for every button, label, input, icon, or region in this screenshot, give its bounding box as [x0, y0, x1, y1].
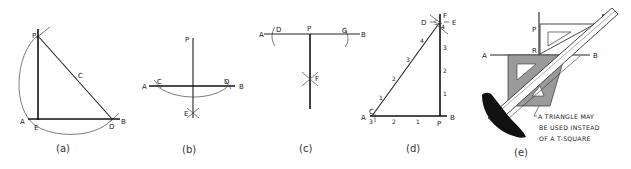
- caption-b: (b): [182, 144, 196, 155]
- base-tick-2: 2: [392, 118, 396, 125]
- label-d: D: [421, 19, 426, 27]
- label-a: A: [482, 52, 487, 60]
- figure-a: P C A E D B (a): [0, 0, 130, 169]
- label-a: A: [142, 83, 147, 91]
- label-f: F: [315, 75, 319, 83]
- caption-a: (a): [56, 143, 70, 154]
- hyp-tick-4: 4: [420, 37, 424, 44]
- note-line-1: A TRIANGLE MAY: [538, 113, 594, 120]
- vertical-tick-2: 2: [443, 67, 447, 74]
- figure-c: A D P G B F (c): [240, 0, 370, 169]
- hyp-tick-2: 2: [392, 75, 396, 82]
- label-e: E: [184, 110, 188, 118]
- label-c: C: [369, 108, 374, 116]
- label-f: F: [443, 12, 447, 20]
- label-b: B: [450, 114, 455, 122]
- caption-c: (c): [299, 143, 312, 154]
- label-a: A: [20, 118, 25, 126]
- hyp-tick-1: 1: [379, 94, 383, 101]
- label-e: E: [34, 124, 38, 132]
- note-line-2: BE USED INSTEAD: [539, 124, 600, 131]
- hypotenuse-line: [372, 22, 440, 116]
- label-b: B: [593, 52, 598, 60]
- label-p: P: [185, 36, 189, 44]
- base-tick-3: 3: [369, 118, 373, 125]
- figure-b: P A C D B E (b): [125, 0, 255, 169]
- label-p: P: [532, 26, 536, 34]
- label-r: R: [532, 47, 537, 55]
- label-s: S: [434, 19, 438, 26]
- vertical-tick-1: 1: [443, 90, 447, 97]
- label-a: A: [361, 114, 366, 122]
- note-line-3: OF A T-SQUARE: [539, 135, 591, 142]
- label-p: P: [307, 25, 311, 33]
- figure-e: P R A B A TRIANGLE MAY BE USED INSTEAD O…: [470, 0, 631, 169]
- label-d: D: [109, 123, 114, 131]
- label-d: D: [276, 26, 281, 34]
- hyp-tick-3: 3: [406, 56, 410, 63]
- label-d: D: [224, 78, 229, 86]
- label-g: G: [342, 27, 347, 35]
- label-a: A: [259, 31, 264, 39]
- label-p: P: [437, 120, 441, 128]
- label-p: P: [32, 32, 36, 40]
- label-c: C: [157, 78, 162, 86]
- vertical-tick-3: 3: [443, 44, 447, 51]
- label-e: E: [452, 19, 456, 27]
- vertical-tick-4: 4: [441, 23, 445, 30]
- label-c: C: [78, 72, 83, 80]
- caption-e: (e): [514, 147, 528, 158]
- caption-d: (d): [406, 143, 420, 154]
- line-pd: [38, 36, 112, 119]
- base-tick-1: 1: [416, 118, 420, 125]
